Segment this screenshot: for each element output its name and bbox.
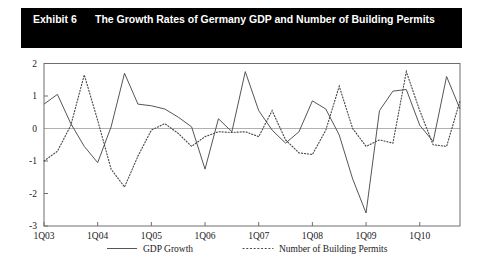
y-tick-label: 1 <box>32 91 37 101</box>
y-axis-tick-labels: 210-1-2-3 <box>29 59 37 232</box>
series-line-building-permits <box>44 72 460 187</box>
chart-legend: GDP GrowthNumber of Building Permits <box>107 244 388 254</box>
x-tick-label: 1Q07 <box>248 231 269 241</box>
x-tick-label: 1Q05 <box>141 231 162 241</box>
legend-label: GDP Growth <box>143 244 193 254</box>
y-tick-label: -1 <box>29 156 37 166</box>
x-tick-label: 1Q06 <box>194 231 215 241</box>
line-chart-svg: 210-1-2-3 1Q031Q041Q051Q061Q071Q081Q091Q… <box>0 52 483 272</box>
y-tick-label: -3 <box>29 221 37 231</box>
x-tick-label: 1Q10 <box>409 231 430 241</box>
series-line-gdp-growth <box>44 72 460 213</box>
y-axis-tick-marks <box>44 64 48 227</box>
y-tick-label: -2 <box>29 189 37 199</box>
x-tick-label: 1Q04 <box>87 231 108 241</box>
y-tick-label: 0 <box>32 124 37 134</box>
exhibit-title-text: The Growth Rates of Germany GDP and Numb… <box>95 13 452 27</box>
chart-plot-area: 210-1-2-3 1Q031Q041Q051Q061Q071Q081Q091Q… <box>0 52 483 272</box>
plot-border-rect <box>44 64 460 227</box>
exhibit-figure: Exhibit 6 The Growth Rates of Germany GD… <box>0 0 483 272</box>
x-axis-tick-labels: 1Q031Q041Q051Q061Q071Q081Q091Q10 <box>33 231 430 241</box>
x-tick-label: 1Q08 <box>302 231 323 241</box>
x-axis-tick-marks <box>44 222 420 226</box>
x-tick-label: 1Q03 <box>33 231 54 241</box>
exhibit-number-label: Exhibit 6 <box>33 13 95 27</box>
y-tick-label: 2 <box>32 59 37 69</box>
x-tick-label: 1Q09 <box>356 231 377 241</box>
legend-label: Number of Building Permits <box>279 244 388 254</box>
exhibit-title-bar: Exhibit 6 The Growth Rates of Germany GD… <box>21 8 462 48</box>
